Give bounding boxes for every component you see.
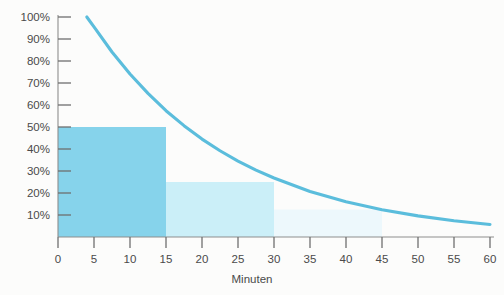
y-tick-label: 50% xyxy=(27,121,50,133)
x-tick-label: 60 xyxy=(484,253,497,265)
x-tick-label: 45 xyxy=(376,253,389,265)
y-tick-label: 40% xyxy=(27,143,50,155)
x-tick-label: 20 xyxy=(196,253,209,265)
bar-segment-30-45 xyxy=(274,210,382,238)
x-tick-label: 10 xyxy=(124,253,137,265)
y-tick-label: 90% xyxy=(27,33,50,45)
y-tick-label: 20% xyxy=(27,187,50,199)
x-tick-label: 30 xyxy=(268,253,281,265)
x-tick-label: 25 xyxy=(232,253,245,265)
y-tick-label: 60% xyxy=(27,99,50,111)
x-tick-label: 0 xyxy=(55,253,61,265)
bar-segment-0-15 xyxy=(58,127,166,237)
chart-canvas: 10%20%30%40%50%60%70%80%90%100% 05101520… xyxy=(0,0,504,295)
x-tick-label: 35 xyxy=(304,253,317,265)
x-tick-label: 55 xyxy=(448,253,461,265)
bar-segment-15-30 xyxy=(166,182,274,237)
y-tick-label: 30% xyxy=(27,165,50,177)
x-tick-label: 15 xyxy=(160,253,173,265)
x-tick-label: 5 xyxy=(91,253,97,265)
y-tick-label: 70% xyxy=(27,77,50,89)
y-tick-label: 100% xyxy=(21,11,50,23)
y-tick-label: 80% xyxy=(27,55,50,67)
y-tick-label: 10% xyxy=(27,209,50,221)
x-tick-label: 40 xyxy=(340,253,353,265)
x-tick-label: 50 xyxy=(412,253,425,265)
x-axis-title: Minuten xyxy=(232,273,273,285)
decay-chart: 10%20%30%40%50%60%70%80%90%100% 05101520… xyxy=(0,0,504,295)
